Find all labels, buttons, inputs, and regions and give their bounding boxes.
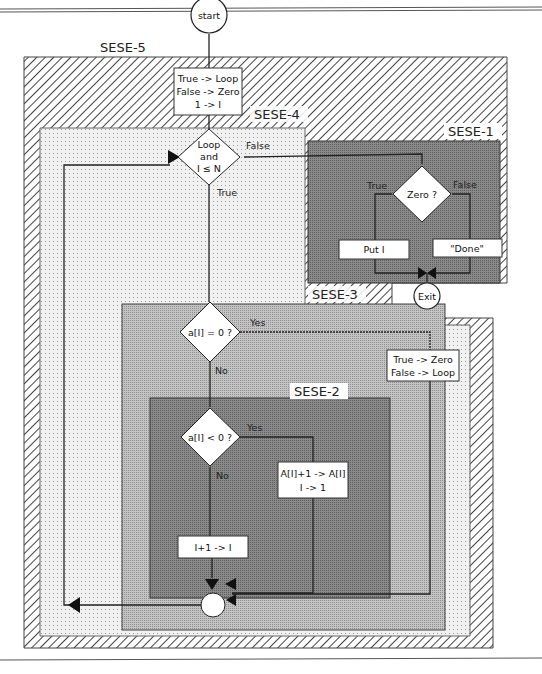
- edge-label-false: False: [453, 179, 477, 190]
- svg-text:I ≤ N: I ≤ N: [197, 163, 221, 174]
- edge-label-no: No: [216, 470, 229, 481]
- set-zero-box: True -> Zero False -> Loop: [387, 350, 459, 381]
- increment-a-box: A[I]+1 -> A[I] I -> 1: [278, 462, 348, 498]
- svg-text:True -> Zero: True -> Zero: [392, 354, 453, 365]
- sese-flow-diagram: SESE-5 SESE-4 SESE-1 SESE-3 SESE-2: [0, 0, 542, 674]
- edge-label-yes: Yes: [249, 317, 265, 328]
- svg-text:Loop: Loop: [198, 139, 221, 150]
- svg-text:start: start: [198, 10, 220, 21]
- svg-text:a[I] < 0 ?: a[I] < 0 ?: [188, 432, 232, 443]
- svg-text:I+1 -> I: I+1 -> I: [194, 542, 231, 553]
- put-i-box: Put I: [339, 240, 409, 259]
- region-label-sese-1: SESE-1: [448, 124, 494, 139]
- increment-i-box: I+1 -> I: [178, 536, 248, 558]
- svg-text:True -> Loop: True -> Loop: [177, 73, 238, 84]
- svg-text:and: and: [200, 151, 218, 162]
- region-sese-2: SESE-2: [150, 383, 390, 598]
- edge-label-no: No: [215, 365, 228, 376]
- svg-text:Zero ?: Zero ?: [407, 189, 437, 200]
- edge-label-yes: Yes: [246, 422, 262, 433]
- svg-text:I -> 1: I -> 1: [300, 482, 326, 493]
- svg-text:Exit: Exit: [418, 291, 436, 302]
- done-box: "Done": [433, 239, 502, 257]
- exit-node: Exit: [414, 283, 440, 309]
- region-label-sese-4: SESE-4: [254, 107, 300, 122]
- region-label-sese-5: SESE-5: [100, 40, 146, 55]
- svg-text:False -> Zero: False -> Zero: [176, 86, 239, 97]
- merge-node: [201, 593, 225, 617]
- bottom-rule: [0, 658, 542, 660]
- svg-text:"Done": "Done": [450, 243, 484, 254]
- svg-text:A[I]+1 -> A[I]: A[I]+1 -> A[I]: [281, 468, 346, 479]
- edge-label-false: False: [246, 140, 270, 151]
- edge-label-true: True: [366, 180, 387, 191]
- region-label-sese-2: SESE-2: [294, 384, 340, 399]
- svg-text:1 -> I: 1 -> I: [195, 99, 221, 110]
- start-node: start: [191, 0, 227, 33]
- region-label-sese-3: SESE-3: [312, 287, 358, 302]
- init-assign-box: True -> Loop False -> Zero 1 -> I: [174, 68, 242, 115]
- edge-label-true: True: [216, 187, 237, 198]
- svg-text:Put I: Put I: [363, 244, 384, 255]
- top-rule: [0, 7, 542, 12]
- svg-text:False -> Loop: False -> Loop: [391, 367, 455, 378]
- svg-text:a[I] = 0 ?: a[I] = 0 ?: [188, 327, 232, 338]
